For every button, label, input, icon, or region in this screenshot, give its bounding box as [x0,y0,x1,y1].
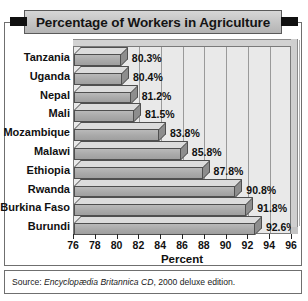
x-tick-label: 94 [263,239,275,251]
bar-top-face [74,66,129,73]
plot-area: 80.3%80.4%81.2%81.5%83.8%85.8%87.8%90.8%… [4,22,302,266]
category-label: Burundi [28,220,70,232]
x-tick-label: 82 [133,239,145,251]
bar-group[interactable] [74,122,166,141]
category-label: Nepal [40,89,70,101]
bar-value-label: 83.8% [170,127,200,139]
bar[interactable] [74,204,246,216]
bar-value-label: 80.3% [132,52,162,64]
bar-top-face [74,141,188,148]
category-label: Ethiopia [27,164,70,176]
bar[interactable] [74,92,131,104]
bar[interactable] [74,148,181,160]
bar[interactable] [74,186,235,198]
category-label: Malawi [34,145,70,157]
bar[interactable] [74,129,159,141]
bar[interactable] [74,54,121,66]
bar-top-face [74,197,253,204]
category-label: Tanzania [24,51,70,63]
x-tick-label: 86 [176,239,188,251]
chart-title: Percentage of Workers in Agriculture [36,15,270,30]
bar-group[interactable] [74,216,262,235]
bar-top-face [74,160,210,167]
bar-value-label: 81.5% [145,108,175,120]
category-label: Uganda [30,70,70,82]
bar-top-face [74,85,138,92]
category-label: Rwanda [28,183,70,195]
bar[interactable] [74,110,134,122]
x-tick-label: 88 [198,239,210,251]
x-tick-label: 84 [154,239,166,251]
plot-front-panel: 80.3%80.4%81.2%81.5%83.8%85.8%87.8%90.8%… [73,46,291,234]
bar-group[interactable] [74,85,138,104]
title-tab-right-icon [281,17,298,26]
title-tab-left-icon [10,17,27,26]
bar-value-label: 81.2% [142,90,172,102]
gridline-back [299,40,300,226]
bar-top-face [74,216,262,223]
bar-value-label: 85.8% [192,146,222,158]
category-label: Burkina Faso [0,201,70,213]
bar[interactable] [74,223,255,235]
x-tick-label: 78 [89,239,101,251]
bar-group[interactable] [74,141,188,160]
bar-value-label: 80.4% [133,71,163,83]
bar-group[interactable] [74,103,141,122]
source-title: Encyclopædia Britannica CD [44,277,153,287]
x-tick-label: 90 [220,239,232,251]
bar[interactable] [74,73,122,85]
bar[interactable] [74,167,203,179]
bar-value-label: 91.8% [257,202,287,214]
bar-top-face [74,47,128,54]
bar-value-label: 90.8% [246,184,276,196]
chart-title-banner: Percentage of Workers in Agriculture [24,10,282,34]
x-tick-label: 96 [285,239,297,251]
x-tick-label: 92 [242,239,254,251]
plot-depth-right [291,39,298,227]
chart-figure: Percentage of Workers in Agriculture 80.… [0,0,308,301]
source-box: Source: Encyclopædia Britannica CD, 2000… [4,270,302,294]
source-suffix: , 2000 deluxe edition. [153,277,235,287]
bar-group[interactable] [74,160,210,179]
source-prefix: Source: [12,277,44,287]
x-axis-title: Percent [73,253,291,265]
bar-top-face [74,179,242,186]
bar-top-face [74,122,166,129]
bar-group[interactable] [74,66,129,85]
category-label: Mali [49,107,70,119]
x-tick-label: 76 [67,239,79,251]
bar-group[interactable] [74,197,253,216]
source-note: Source: Encyclopædia Britannica CD, 2000… [5,277,235,287]
bar-top-face [74,103,141,110]
plot-depth-top [73,39,291,46]
x-tick-label: 80 [111,239,123,251]
category-axis: TanzaniaUgandaNepalMaliMozambiqueMalawiE… [4,22,70,266]
plot-depth-corner [291,227,298,234]
bar-group[interactable] [74,47,128,66]
bar-group[interactable] [74,179,242,198]
bar-value-label: 87.8% [214,165,244,177]
category-label: Mozambique [3,126,70,138]
